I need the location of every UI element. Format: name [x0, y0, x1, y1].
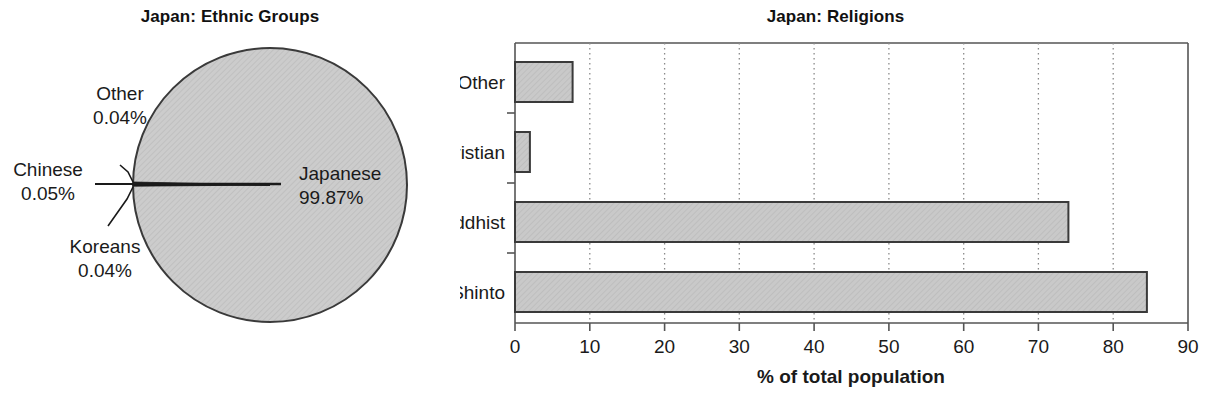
bar-buddhist: [515, 202, 1068, 242]
x-axis-title: % of total population: [757, 366, 945, 387]
category-label-christian: Christian: [460, 142, 505, 163]
pie-label-koreans-name: Koreans: [70, 236, 141, 257]
leader-line-koreans: [108, 187, 133, 226]
x-tick-label-30: 30: [729, 336, 750, 357]
x-tick-label-80: 80: [1103, 336, 1124, 357]
bar-chart-title: Japan: Religions: [460, 7, 1211, 27]
leader-line-other: [120, 165, 133, 182]
pie-label-other-name: Other: [96, 83, 144, 104]
y-axis-ticks: [507, 113, 515, 253]
x-axis-ticks: [515, 323, 1188, 331]
x-tick-label-40: 40: [804, 336, 825, 357]
pie-label-chinese-value: 0.05%: [21, 183, 75, 204]
bar-shinto: [515, 272, 1147, 312]
bar-christian: [515, 132, 530, 172]
x-tick-label-90: 90: [1177, 336, 1198, 357]
pie-label-other-value: 0.04%: [93, 107, 147, 128]
pie-chart-svg: Japanese 99.87% Other 0.04% Chinese 0.05…: [0, 0, 460, 393]
category-label-buddhist: Buddhist: [460, 212, 506, 233]
bar-chart-panel: Japan: Religions: [460, 0, 1211, 393]
category-label-other: Other: [460, 72, 506, 93]
x-tick-label-50: 50: [878, 336, 899, 357]
x-tick-label-20: 20: [654, 336, 675, 357]
x-tick-label-60: 60: [953, 336, 974, 357]
pie-chart-panel: Japan: Ethnic Groups: [0, 0, 460, 393]
figure-root: Japan: Ethnic Groups: [0, 0, 1211, 393]
x-tick-label-70: 70: [1028, 336, 1049, 357]
pie-label-japanese-value: 99.87%: [299, 187, 364, 208]
x-tick-label-0: 0: [510, 336, 521, 357]
bar-other: [515, 62, 573, 102]
category-label-shinto: Shinto: [460, 282, 505, 303]
x-tick-label-10: 10: [579, 336, 600, 357]
pie-chart-title: Japan: Ethnic Groups: [0, 7, 460, 27]
bar-chart-svg: Other Christian Buddhist Shinto 0 10 20 …: [460, 0, 1211, 393]
pie-label-chinese-name: Chinese: [13, 159, 83, 180]
pie-label-japanese-name: Japanese: [299, 163, 381, 184]
pie-label-koreans-value: 0.04%: [78, 260, 132, 281]
